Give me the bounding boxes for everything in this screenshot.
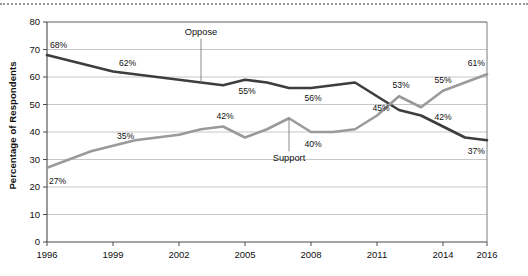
y-axis-tick-label: 60 xyxy=(29,71,40,82)
data-label-oppose-2005: 55% xyxy=(238,86,256,96)
series-annotation-oppose: Oppose xyxy=(185,27,218,37)
data-label-support-2004: 42% xyxy=(216,111,234,121)
series-annotation-support: Support xyxy=(273,153,306,163)
data-label-oppose-2011: 45% xyxy=(372,103,390,113)
y-axis-tick-label: 40 xyxy=(29,126,40,137)
series-line-support xyxy=(47,74,487,168)
chart-figure: Percentage of Respondents 01020304050607… xyxy=(0,0,528,276)
data-label-support-1996: 27% xyxy=(49,176,67,186)
x-axis-tick-label: 2016 xyxy=(476,249,497,260)
y-axis-tick-label: 50 xyxy=(29,99,40,110)
line-chart-svg: 01020304050607080 1996199920022005200820… xyxy=(0,0,528,276)
data-label-oppose-1999: 62% xyxy=(119,58,137,68)
x-axis-ticks-group: 19961999200220052008201120142016 xyxy=(36,249,497,260)
x-axis-tick-label: 1996 xyxy=(36,249,57,260)
x-axis-tick-label: 2005 xyxy=(234,249,255,260)
y-axis-ticks-group: 01020304050607080 xyxy=(29,16,40,247)
y-axis-tick-label: 20 xyxy=(29,181,40,192)
gridlines-group xyxy=(47,22,487,215)
x-axis-tick-label: 2014 xyxy=(432,249,453,260)
data-labels-group: 68%62%55%56%45%42%37%27%35%42%40%53%55%6… xyxy=(49,40,485,186)
x-axis-tick-label: 2011 xyxy=(367,249,387,260)
y-axis-tick-label: 10 xyxy=(29,209,40,220)
data-label-support-1999: 35% xyxy=(117,131,135,141)
x-axis-tick-label: 2002 xyxy=(168,249,189,260)
data-label-oppose-2008: 56% xyxy=(304,93,322,103)
y-axis-tick-label: 80 xyxy=(29,16,40,27)
data-label-oppose-2016: 37% xyxy=(468,146,486,156)
data-label-support-2008: 40% xyxy=(304,139,322,149)
data-label-support-2012: 53% xyxy=(392,80,410,90)
series-line-oppose xyxy=(47,55,487,140)
series-lines-group xyxy=(47,55,487,168)
data-label-oppose-2014: 42% xyxy=(434,112,452,122)
axis-lines-group xyxy=(43,22,487,246)
data-label-support-2014: 55% xyxy=(434,75,452,85)
data-label-oppose-1996: 68% xyxy=(50,40,68,50)
y-axis-tick-label: 30 xyxy=(29,154,40,165)
y-axis-tick-label: 70 xyxy=(29,44,40,55)
x-axis-tick-label: 2008 xyxy=(300,249,321,260)
x-axis-tick-label: 1999 xyxy=(102,249,123,260)
data-label-support-2016: 61% xyxy=(468,58,486,68)
y-axis-tick-label: 0 xyxy=(35,236,40,247)
plot-area-container: 01020304050607080 1996199920022005200820… xyxy=(0,0,528,276)
